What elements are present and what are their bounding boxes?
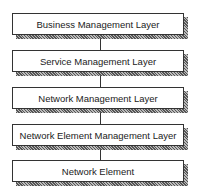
layer-label: Network Management Layer: [12, 87, 184, 109]
layer-network-element-management: Network Element Management Layer: [12, 124, 184, 146]
layer-service-management: Service Management Layer: [12, 50, 184, 72]
layer-label: Network Element Management Layer: [12, 124, 184, 146]
layer-label: Network Element: [12, 160, 184, 182]
layer-business-management: Business Management Layer: [12, 13, 184, 35]
layer-label: Business Management Layer: [12, 13, 184, 35]
layer-label: Service Management Layer: [12, 50, 184, 72]
layer-network-management: Network Management Layer: [12, 87, 184, 109]
layer-network-element: Network Element: [12, 160, 184, 182]
